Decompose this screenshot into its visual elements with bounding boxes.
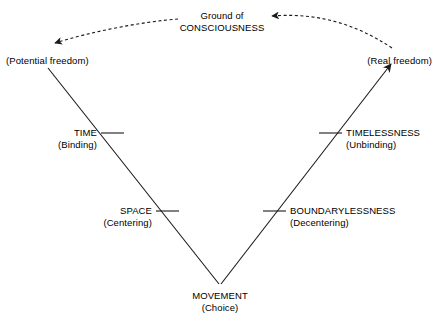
real-freedom-text: (Real freedom)	[367, 55, 432, 66]
node-timelessness: TIMELESSNESS (Unbinding)	[346, 127, 420, 150]
movement-qualifier: (Choice)	[192, 302, 248, 314]
space-qualifier: (Centering)	[103, 217, 152, 229]
movement-name: MOVEMENT	[192, 290, 248, 302]
dashed-arc-right	[272, 15, 392, 48]
time-qualifier: (Binding)	[58, 139, 97, 151]
time-name: TIME	[58, 127, 97, 139]
diagram-canvas: Ground of CONSCIOUSNESS (Potential freed…	[0, 0, 438, 321]
left-limb-line	[48, 68, 219, 284]
consciousness-line1: Ground of	[180, 10, 265, 22]
dashed-arc-left	[55, 19, 178, 43]
boundarylessness-name: BOUNDARYLESSNESS	[290, 205, 395, 217]
consciousness-line2: CONSCIOUSNESS	[180, 22, 265, 34]
node-boundarylessness: BOUNDARYLESSNESS (Decentering)	[290, 205, 395, 228]
space-name: SPACE	[103, 205, 152, 217]
diagram-graphics	[0, 0, 438, 321]
timelessness-name: TIMELESSNESS	[346, 127, 420, 139]
node-space: SPACE (Centering)	[103, 205, 152, 228]
label-potential-freedom: (Potential freedom)	[6, 55, 89, 67]
boundarylessness-qualifier: (Decentering)	[290, 217, 395, 229]
node-movement: MOVEMENT (Choice)	[192, 290, 248, 313]
potential-freedom-text: (Potential freedom)	[6, 55, 89, 66]
node-consciousness: Ground of CONSCIOUSNESS	[180, 10, 265, 33]
right-limb-line	[221, 64, 391, 284]
node-time: TIME (Binding)	[58, 127, 97, 150]
timelessness-qualifier: (Unbinding)	[346, 139, 420, 151]
label-real-freedom: (Real freedom)	[367, 55, 432, 67]
